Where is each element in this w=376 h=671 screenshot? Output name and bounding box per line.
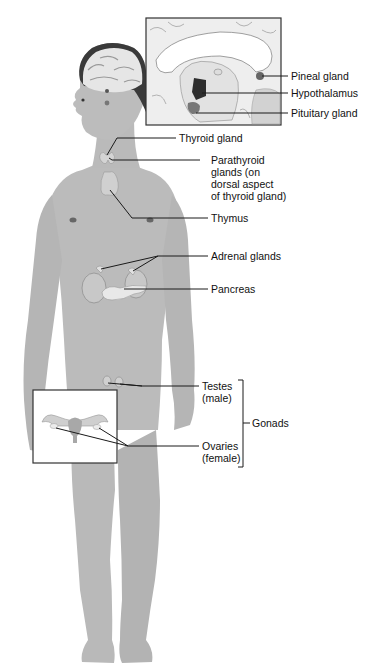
pituitary-dot — [105, 101, 110, 106]
label-pituitary-gland: Pituitary gland — [291, 107, 358, 119]
label-hypothalamus: Hypothalamus — [291, 87, 358, 99]
label-gonads: Gonads — [252, 417, 289, 429]
label-pineal-gland: Pineal gland — [291, 70, 349, 82]
label-adrenal-glands: Adrenal glands — [211, 250, 281, 262]
left-leg — [71, 430, 115, 663]
label-parathyroid-glands: Parathyroid glands (on dorsal aspect of … — [211, 154, 286, 202]
female-reproductive-inset — [33, 390, 117, 463]
intermediate-mass — [214, 69, 222, 75]
brain-sagittal-inset — [146, 18, 281, 125]
nipple-left — [70, 218, 77, 223]
human-body — [24, 43, 195, 663]
thymus-gland — [101, 172, 118, 196]
left-testis — [103, 376, 111, 386]
right-arm — [162, 195, 195, 430]
right-leg — [118, 430, 160, 663]
eye — [81, 98, 84, 101]
label-ovaries: Ovaries (female) — [202, 440, 241, 464]
label-testes: Testes (male) — [202, 380, 232, 404]
left-kidney — [82, 273, 106, 303]
label-pancreas: Pancreas — [211, 283, 255, 295]
cerebellum — [252, 89, 281, 124]
label-thymus: Thymus — [211, 212, 248, 224]
label-thyroid-gland: Thyroid gland — [179, 132, 243, 144]
endocrine-system-figure — [0, 0, 376, 671]
pineal-dot — [105, 89, 109, 93]
right-testis — [115, 377, 123, 387]
